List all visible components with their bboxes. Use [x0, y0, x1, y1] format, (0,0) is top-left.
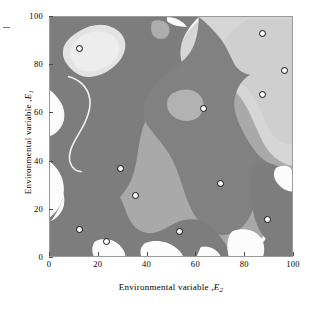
x-tick-label: 20 [78, 259, 118, 269]
x-axis-title: Environmental variable ,E2 [49, 282, 293, 294]
x-axis-title-text: Environmental variable , [119, 282, 214, 292]
y-axis-title: Environmental variable ,E1 [23, 27, 35, 257]
y-tick [49, 112, 53, 113]
data-point [76, 45, 83, 52]
y-axis-title-text: Environmental variable , [23, 99, 33, 194]
data-point [132, 192, 139, 199]
data-point [259, 91, 266, 98]
y-axis-title-subscript: 1 [27, 90, 35, 94]
plot-area [49, 16, 293, 257]
y-tick [49, 161, 53, 162]
data-point [281, 67, 288, 74]
y-tick [49, 16, 53, 17]
x-tick-label: 80 [224, 259, 264, 269]
data-point [103, 238, 110, 245]
x-tick-label: 40 [127, 259, 167, 269]
data-point [264, 216, 271, 223]
y-tick [49, 209, 53, 210]
x-tick [49, 252, 50, 256]
x-tick [244, 252, 245, 256]
y-axis-title-symbol: E [23, 93, 33, 99]
y-tick-label: 100 [9, 11, 43, 21]
data-point [76, 226, 83, 233]
contour-surface [50, 17, 292, 256]
x-tick [195, 252, 196, 256]
x-tick-label: 100 [273, 259, 312, 269]
edge-mark-icon [3, 27, 10, 28]
x-axis-title-subscript: 2 [220, 286, 224, 294]
x-tick-label: 60 [175, 259, 215, 269]
y-tick [49, 64, 53, 65]
figure: 0 20 40 60 80 100 0 20 40 60 80 100 Envi… [0, 0, 312, 310]
x-tick [293, 252, 294, 256]
x-tick [98, 252, 99, 256]
x-tick [147, 252, 148, 256]
y-tick [49, 257, 53, 258]
data-point [176, 228, 183, 235]
